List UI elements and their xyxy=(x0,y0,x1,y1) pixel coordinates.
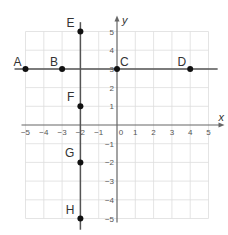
y-tick-label: −3 xyxy=(105,177,115,186)
x-tick-label: 1 xyxy=(133,128,138,137)
point-label-h: H xyxy=(66,203,75,217)
y-tick-label: 1 xyxy=(110,102,115,111)
point-h xyxy=(77,216,83,222)
point-label-c: C xyxy=(120,55,129,69)
point-d xyxy=(187,66,193,72)
y-tick-label: −2 xyxy=(105,158,115,167)
x-tick-label: 5 xyxy=(206,128,211,137)
point-label-a: A xyxy=(13,55,21,69)
y-tick-label: 4 xyxy=(110,46,115,55)
x-tick-label: 2 xyxy=(151,128,156,137)
point-g xyxy=(77,159,83,165)
y-axis-label: y xyxy=(121,14,129,26)
axes xyxy=(22,16,225,223)
point-label-e: E xyxy=(66,16,74,30)
point-label-f: F xyxy=(67,90,74,104)
x-tick-label: 4 xyxy=(188,128,193,137)
point-label-b: B xyxy=(50,55,58,69)
x-tick-label: −5 xyxy=(21,128,31,137)
y-tick-label: −5 xyxy=(105,215,115,224)
plotted-lines xyxy=(15,22,218,230)
y-axis-arrow-icon xyxy=(115,16,120,22)
point-a xyxy=(23,66,29,72)
x-tick-label: 3 xyxy=(170,128,175,137)
y-tick-label: 5 xyxy=(110,28,115,37)
x-axis-arrow-icon xyxy=(219,123,225,128)
x-tick-label: −1 xyxy=(94,128,104,137)
point-label-g: G xyxy=(65,146,74,160)
plotted-points: ABCDEFGH xyxy=(13,16,193,222)
point-f xyxy=(77,103,83,109)
x-tick-label: −4 xyxy=(39,128,49,137)
x-tick-label: 0 xyxy=(119,128,124,137)
point-label-d: D xyxy=(178,55,187,69)
y-tick-label: −4 xyxy=(105,196,115,205)
y-tick-label: −1 xyxy=(105,140,115,149)
x-tick-label: −3 xyxy=(58,128,68,137)
point-b xyxy=(59,66,65,72)
coordinate-plane: −5−4−3−2−101234554321−1−2−3−4−5 ABCDEFGH… xyxy=(0,0,228,235)
x-axis-label: x xyxy=(218,111,225,123)
y-tick-label: 2 xyxy=(110,84,115,93)
point-e xyxy=(77,29,83,35)
